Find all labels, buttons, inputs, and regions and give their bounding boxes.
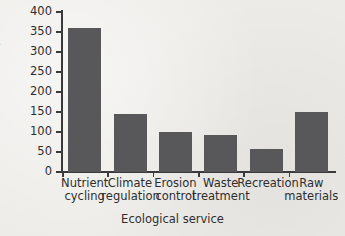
category-label-line2: treatment (192, 190, 249, 203)
y-tick-label: 250 (30, 66, 52, 78)
bar (204, 135, 237, 172)
y-tick: 50 (56, 151, 62, 153)
bar (68, 28, 101, 172)
y-tick-label: 300 (30, 46, 52, 58)
category-label-line2: materials (283, 190, 340, 203)
y-tick: 400 (56, 11, 62, 13)
bar (250, 149, 283, 172)
chart-page: 050100150200250300350400 Nutrientcycling… (0, 0, 345, 236)
bar (114, 114, 147, 172)
y-tick-label: 50 (37, 146, 52, 158)
y-tick-label: 0 (45, 166, 52, 178)
y-tick: 100 (56, 131, 62, 133)
y-tick: 250 (56, 71, 62, 73)
y-tick: 300 (56, 51, 62, 53)
y-tick: 200 (56, 91, 62, 93)
plot-area: 050100150200250300350400 (62, 12, 334, 172)
y-tick-label: 100 (30, 126, 52, 138)
bar (295, 112, 328, 172)
y-tick-label: 400 (30, 6, 52, 18)
y-tick: 150 (56, 111, 62, 113)
category-label-line1: Climate (108, 176, 152, 190)
bar (159, 132, 192, 172)
category-label-line1: Erosion (154, 176, 196, 190)
category-label: Rawmaterials (283, 177, 340, 203)
category-label-line1: Waste (203, 176, 238, 190)
y-tick: 350 (56, 31, 62, 33)
y-tick-label: 200 (30, 86, 52, 98)
y-tick-label: 150 (30, 106, 52, 118)
y-axis-title: Worth (billions of dollars) (0, 0, 2, 86)
category-label-line1: Raw (299, 176, 323, 190)
x-axis-title: Ecological service (0, 212, 345, 226)
y-tick-label: 350 (30, 26, 52, 38)
